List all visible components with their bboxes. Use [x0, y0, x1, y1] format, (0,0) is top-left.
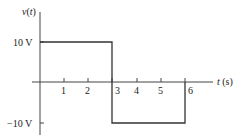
waveform-chart: v(t) 10 V −10 V 1 2 3 4 5 6 t (s): [0, 0, 245, 138]
y-axis-label: v(t): [22, 6, 36, 18]
x-tick-label-4: 4: [134, 85, 139, 96]
x-tick-label-6: 6: [188, 85, 193, 96]
x-tick-label-3: 3: [115, 85, 120, 96]
y-low-label: −10 V: [7, 118, 33, 129]
x-tick-label-5: 5: [158, 85, 163, 96]
x-ticks: [64, 78, 185, 82]
x-tick-label-1: 1: [61, 85, 66, 96]
x-tick-label-2: 2: [85, 85, 90, 96]
y-high-label: 10 V: [13, 37, 33, 48]
x-axis-label: t (s): [217, 76, 233, 88]
